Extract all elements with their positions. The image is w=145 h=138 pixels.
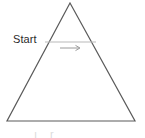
direction-arrow-icon: [60, 45, 80, 50]
diagram-canvas: Start ı r: [0, 0, 145, 138]
triangle-shape: [7, 3, 135, 121]
start-label: Start: [13, 34, 37, 45]
bottom-cropped-label: ı r: [34, 129, 59, 138]
triangle-diagram-svg: [0, 0, 145, 138]
